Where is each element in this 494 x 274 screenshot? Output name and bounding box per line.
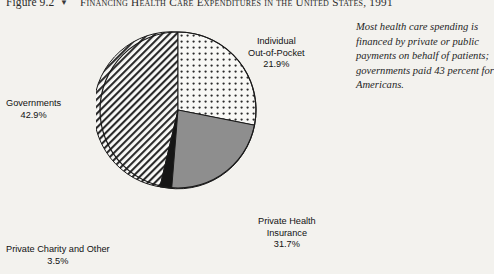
pie-value-governments: 42.9% <box>6 110 61 122</box>
margin-note-line: Americans. <box>356 78 474 93</box>
pie-label-line1: Private Charity and Other <box>6 244 110 254</box>
pie-value-private-charity-and-other: 3.5% <box>6 256 110 268</box>
pie-label-private-health-insurance: Private Health Insurance 31.7% <box>258 216 316 251</box>
margin-note-line: financed by private or public <box>356 35 474 50</box>
margin-note-line: payments on behalf of patients; <box>356 49 474 64</box>
pie-label-governments: Governments 42.9% <box>6 98 61 121</box>
pie-chart-svg <box>96 28 264 196</box>
pie-label-line1: Private Health <box>258 216 316 226</box>
pie-value-individual-out-of-pocket: 21.9% <box>248 59 305 71</box>
figure-title-bar: Figure 9.2 ▼ Financing Health Care Expen… <box>0 0 460 12</box>
pie-chart <box>96 28 264 196</box>
pie-label-line1: Individual <box>257 36 296 46</box>
pie-label-line2: Out-of-Pocket <box>248 48 305 58</box>
margin-note: Most health care spending is financed by… <box>356 20 474 93</box>
margin-note-line: Most health care spending is <box>356 20 474 35</box>
margin-note-line: governments paid 43 percent for <box>356 64 474 79</box>
pie-label-line2: Insurance <box>267 228 307 238</box>
figure-title: Financing Health Care Expenditures in th… <box>80 0 393 8</box>
pie-label-private-charity-and-other: Private Charity and Other 3.5% <box>6 244 110 267</box>
pie-slice-individual-out-of-pocket[interactable] <box>178 32 256 125</box>
pie-label-line1: Governments <box>6 98 61 108</box>
triangle-down-icon: ▼ <box>60 0 68 7</box>
pie-label-individual-out-of-pocket: Individual Out-of-Pocket 21.9% <box>248 36 305 71</box>
figure-number: Figure 9.2 <box>6 0 54 8</box>
pie-value-private-health-insurance: 31.7% <box>258 239 316 251</box>
